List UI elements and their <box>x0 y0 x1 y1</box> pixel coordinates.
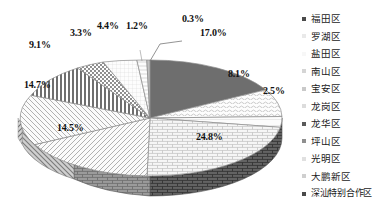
legend-item-pingshan[interactable]: 坪山区 <box>302 133 390 151</box>
legend-label: 龙岗区 <box>311 102 341 112</box>
data-label-pingshan: 3.3% <box>70 27 92 38</box>
legend-swatch-icon <box>302 174 306 178</box>
data-label-dapeng: 1.2% <box>126 20 148 31</box>
data-label-luohu: 8.1% <box>228 68 250 79</box>
pie-chart-plot-area: 17.0% 8.1% 2.5% 24.8% 14.5% 14.7% 9.1% 3… <box>0 0 300 217</box>
legend-item-luohu[interactable]: 罗湖区 <box>302 28 390 46</box>
legend-swatch-icon <box>302 157 306 161</box>
chart-root: 17.0% 8.1% 2.5% 24.8% 14.5% 14.7% 9.1% 3… <box>0 0 390 217</box>
legend-swatch-icon <box>302 87 306 91</box>
leader-line-dapeng <box>140 50 142 61</box>
legend-swatch-icon <box>302 192 306 196</box>
legend-swatch-icon <box>302 122 306 126</box>
leader-line-shenshan <box>150 41 182 61</box>
data-label-longgang: 14.7% <box>24 79 51 90</box>
data-label-guangming: 4.4% <box>97 20 119 31</box>
legend-label: 光明区 <box>311 154 341 164</box>
legend-item-baoan[interactable]: 宝安区 <box>302 80 390 98</box>
legend-label: 坪山区 <box>311 137 341 147</box>
legend-label: 深汕特别合作区 <box>311 189 372 198</box>
legend-swatch-icon <box>302 34 306 38</box>
legend-item-yantian[interactable]: 盐田区 <box>302 45 390 63</box>
pie-chart-svg <box>0 0 300 217</box>
chart-legend: 福田区 罗湖区 盐田区 南山区 宝安区 龙岗区 龙华区 坪山区 <box>302 10 390 203</box>
legend-swatch-icon <box>302 104 306 108</box>
data-label-futian: 17.0% <box>200 27 227 38</box>
legend-label: 宝安区 <box>311 84 341 94</box>
legend-label: 南山区 <box>311 67 341 77</box>
legend-label: 盐田区 <box>311 49 341 59</box>
legend-item-futian[interactable]: 福田区 <box>302 10 390 28</box>
data-label-nanshan: 24.8% <box>196 131 223 142</box>
legend-item-dapeng[interactable]: 大鹏新区 <box>302 168 390 186</box>
legend-label: 福田区 <box>311 14 341 24</box>
data-label-baoan: 14.5% <box>57 122 84 133</box>
legend-item-shenshan[interactable]: 深汕特别合作区 <box>302 185 390 203</box>
legend-swatch-icon <box>302 139 306 143</box>
legend-item-guangming[interactable]: 光明区 <box>302 150 390 168</box>
data-label-yantian: 2.5% <box>263 85 285 96</box>
data-label-shenshan: 0.3% <box>182 13 204 24</box>
legend-swatch-icon <box>302 69 306 73</box>
legend-swatch-icon <box>302 17 306 21</box>
legend-label: 大鹏新区 <box>311 172 351 182</box>
legend-item-nanshan[interactable]: 南山区 <box>302 63 390 81</box>
legend-item-longgang[interactable]: 龙岗区 <box>302 98 390 116</box>
legend-label: 龙华区 <box>311 119 341 129</box>
legend-label: 罗湖区 <box>311 32 341 42</box>
legend-item-longhua[interactable]: 龙华区 <box>302 115 390 133</box>
legend-swatch-icon <box>302 52 306 56</box>
data-label-longhua: 9.1% <box>29 39 51 50</box>
